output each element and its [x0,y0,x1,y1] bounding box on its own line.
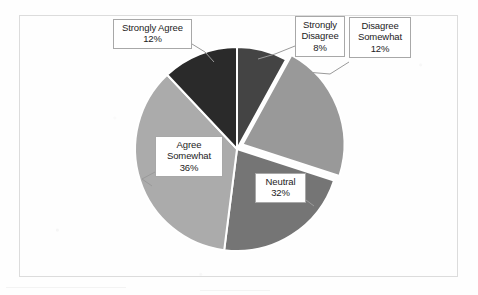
pie-label-strongly-disagree-name-line2: Disagree [300,30,340,41]
pie-label-strongly-agree[interactable]: Strongly Agree 12% [113,19,192,49]
pie-label-disagree-somewhat-name-line2: Somewhat [354,31,406,42]
pie-label-neutral-name: Neutral [260,176,301,187]
leader-line-disagree-somewhat [306,62,349,74]
pie-label-strongly-disagree-name-line1: Strongly [300,19,340,30]
pie-label-disagree-somewhat-value: 12% [354,43,406,54]
chart-canvas: Strongly Agree 12% Strongly Disagree 8% … [0,0,478,295]
pie-label-agree-somewhat-name-line2: Somewhat [160,150,218,161]
pie-label-agree-somewhat-name-line1: Agree [160,139,218,150]
pie-label-neutral[interactable]: Neutral 32% [255,173,306,203]
pie-label-strongly-disagree-value: 8% [300,42,340,53]
pie-label-disagree-somewhat-name-line1: Disagree [354,20,406,31]
pie-label-agree-somewhat-value: 36% [160,162,218,173]
pie-label-strongly-agree-value: 12% [118,33,187,44]
pie-label-strongly-disagree[interactable]: Strongly Disagree 8% [295,16,345,57]
pie-label-disagree-somewhat[interactable]: Disagree Somewhat 12% [349,17,411,58]
pie-label-neutral-value: 32% [260,187,301,198]
pie-label-agree-somewhat[interactable]: Agree Somewhat 36% [155,136,223,177]
pie-label-strongly-agree-name: Strongly Agree [118,22,187,33]
